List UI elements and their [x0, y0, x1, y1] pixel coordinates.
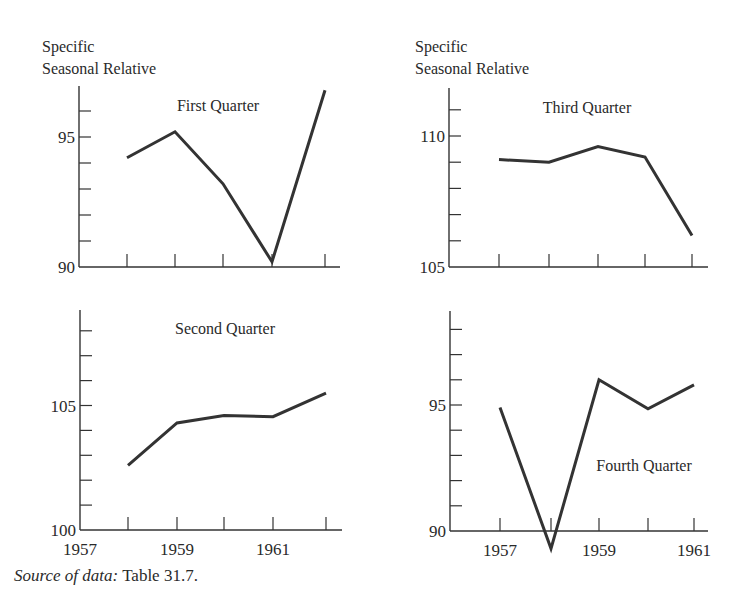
x-tick-label: 1957	[63, 540, 98, 559]
y-tick-label: 105	[420, 258, 446, 277]
source-note: Source of data: Table 31.7.	[14, 566, 198, 586]
source-label: Source of data:	[14, 566, 118, 585]
chart-panel-top-left: 9095First Quarter	[58, 86, 340, 277]
data-line	[127, 90, 325, 262]
x-tick-label: 1959	[160, 540, 194, 559]
y-tick-label: 95	[58, 128, 75, 147]
source-reference: Table 31.7.	[122, 566, 198, 585]
x-tick-label: 1961	[677, 541, 711, 560]
panel-title: Fourth Quarter	[596, 457, 692, 474]
x-tick-label: 1961	[256, 540, 290, 559]
panel-title: Third Quarter	[543, 99, 632, 116]
x-tick-label: 1959	[582, 541, 616, 560]
data-line	[128, 393, 326, 465]
y-tick-label: 105	[51, 397, 77, 416]
y-tick-label: 100	[51, 521, 77, 540]
x-tick-label: 1957	[483, 541, 518, 560]
y-tick-label: 90	[58, 258, 75, 277]
y-tick-label: 90	[429, 522, 446, 541]
chart-panel-bottom-left: 100105195719591961Second Quarter	[51, 310, 343, 559]
panel-title: First Quarter	[177, 97, 260, 114]
y-tick-label: 110	[420, 127, 445, 146]
panel-title: Second Quarter	[175, 320, 276, 337]
y-tick-label: 95	[429, 396, 446, 415]
chart-panels: 9095First Quarter105110Third Quarter1001…	[0, 0, 744, 602]
data-line	[499, 147, 692, 236]
chart-panel-top-right: 105110Third Quarter	[420, 88, 709, 277]
seasonal-relatives-figure: Specific Seasonal Relative Specific Seas…	[0, 0, 744, 602]
chart-panel-bottom-right: 9095195719591961Fourth Quarter	[429, 311, 711, 560]
